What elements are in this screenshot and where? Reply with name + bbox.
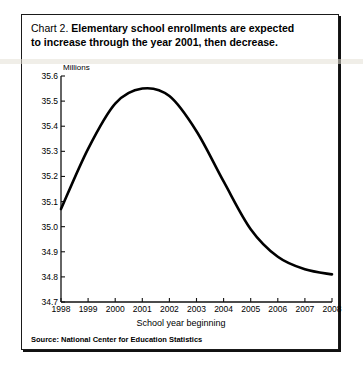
enrollment-line-series [61, 88, 332, 274]
chart-plot-svg [22, 15, 340, 351]
chart-figure: Chart 2. Elementary school enrollments a… [21, 14, 339, 350]
plot-area: Millions 34.734.834.935.035.135.235.335.… [22, 15, 340, 351]
x-axis-title: School year beginning [22, 318, 340, 328]
plot-frame [61, 76, 332, 302]
source-note: Source: National Center for Education St… [31, 335, 202, 344]
